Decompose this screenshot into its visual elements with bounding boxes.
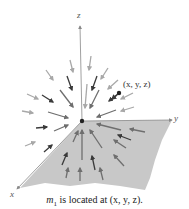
caption-text: is located at (x, y, z). — [57, 194, 143, 205]
z-axis — [80, 26, 82, 121]
point-label: (x, y, z) — [123, 79, 150, 89]
caption-mass-symbol: m — [46, 194, 53, 205]
xy-plane — [20, 120, 172, 190]
z-axis-label: z — [77, 10, 81, 20]
y-axis-label: y — [174, 113, 178, 123]
point-marker — [117, 91, 121, 95]
origin-mass-m1 — [80, 119, 84, 123]
vector-field-figure: z y x (x, y, z) m1 is located at (x, y, … — [0, 0, 189, 209]
vector-field-diagram — [0, 0, 189, 209]
figure-caption: m1 is located at (x, y, z). — [0, 194, 189, 208]
